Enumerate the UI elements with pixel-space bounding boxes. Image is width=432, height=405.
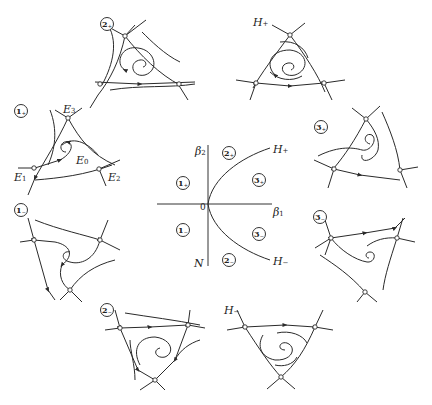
- region-3minus-label: 3−: [252, 227, 266, 241]
- beta1-axis-label: β1: [273, 207, 284, 218]
- E1-label: E1: [14, 172, 27, 183]
- portrait-1plus: [18, 108, 120, 195]
- center-bifurcation-diagram: [157, 145, 272, 266]
- portrait-2minus: [105, 310, 205, 390]
- E3-label: E3: [63, 104, 76, 115]
- N-curve-label: N: [194, 258, 204, 269]
- region-2plus-label: 2+: [222, 146, 236, 160]
- portrait-3minus-label: 3−: [313, 210, 327, 224]
- portrait-1plus-label: 1+: [14, 104, 28, 118]
- E2-label: E2: [108, 172, 121, 183]
- region-1minus-label: 1−: [176, 223, 190, 237]
- beta2-axis-label: β2: [195, 146, 206, 157]
- portrait-1minus: [20, 218, 120, 302]
- portrait-Hminus-label: H−: [224, 305, 239, 316]
- portrait-2plus-label: 2+: [100, 17, 114, 31]
- E0-label: E0: [76, 155, 89, 166]
- region-3plus-label: 3+: [252, 173, 266, 187]
- portrait-3minus: [315, 218, 415, 302]
- portrait-3plus-label: 3+: [314, 120, 328, 134]
- bifurcation-figure: [0, 0, 432, 405]
- portrait-3plus: [314, 106, 418, 188]
- portrait-Hplus-label: H+: [253, 17, 268, 28]
- Hminus-curve-label: H−: [273, 256, 288, 267]
- portrait-Hplus: [236, 23, 345, 100]
- region-1plus-label: 1+: [176, 176, 190, 190]
- portrait-2minus-label: 2−: [100, 303, 114, 317]
- portrait-1minus-label: 1−: [14, 203, 28, 217]
- portrait-2plus: [90, 20, 195, 108]
- portrait-Hminus: [227, 310, 333, 389]
- region-2minus-label: 2−: [222, 253, 236, 267]
- Hplus-curve-label: H+: [273, 144, 288, 155]
- origin-label: 0: [200, 203, 206, 212]
